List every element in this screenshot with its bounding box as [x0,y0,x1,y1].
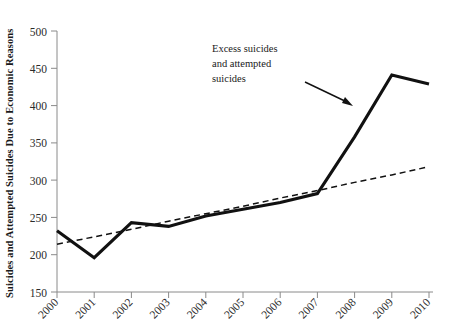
y-tick-label: 200 [30,249,48,261]
chart-container: Suicides and Attempted Suicides Due to E… [0,0,457,331]
annotation-line-1: Excess suicides [212,43,278,54]
y-tick-label: 500 [30,26,48,38]
y-tick-label: 350 [30,137,48,149]
y-tick-label: 450 [30,63,48,75]
annotation-line-3: suicides [212,73,246,84]
y-tick-label: 400 [30,100,48,112]
y-axis-title: Suicides and Attempted Suicides Due to E… [4,29,15,298]
economic-suicides-line-chart: Suicides and Attempted Suicides Due to E… [0,0,457,331]
y-tick-label: 250 [30,212,48,224]
y-tick-label: 150 [30,287,48,299]
annotation-line-2: and attempted [212,58,272,69]
y-tick-label: 300 [30,175,48,187]
